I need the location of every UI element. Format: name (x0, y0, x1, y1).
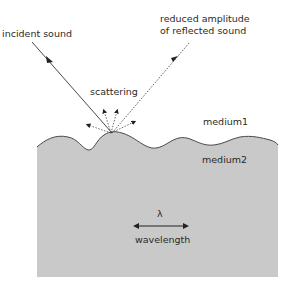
reflected-sound-label-line2: of reflected sound (160, 25, 246, 36)
scatter-arrows-icon (88, 111, 134, 133)
scattering-diagram: incident sound reduced amplitude of refl… (0, 0, 289, 287)
medium2-label: medium2 (202, 154, 247, 165)
medium1-label: medium1 (203, 116, 248, 127)
scattering-label: scattering (90, 86, 138, 97)
wavelength-label: wavelength (135, 234, 190, 245)
lambda-symbol: λ (157, 208, 163, 219)
reflected-sound-label-line1: reduced amplitude (160, 13, 250, 24)
incident-sound-label: incident sound (2, 28, 72, 39)
reflected-arrow-icon (171, 56, 178, 62)
incident-arrow-icon (46, 56, 53, 63)
